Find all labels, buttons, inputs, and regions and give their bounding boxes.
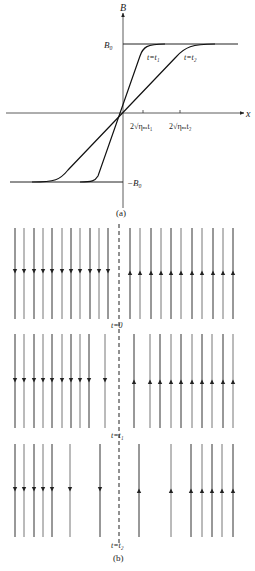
- arrow-up-icon: [179, 380, 183, 385]
- arrow-down-icon: [41, 378, 45, 383]
- arrow-down-icon: [103, 378, 107, 383]
- x-axis-label: x: [245, 108, 251, 119]
- arrow-up-icon: [190, 380, 194, 385]
- figure: x B B₀ −B₀ 2√ηₘt₁ 2√ηₘt₂ t=t₁ t=t₂ (a) t…: [0, 0, 255, 571]
- b0-label: B₀: [104, 40, 113, 50]
- arrow-up-icon: [211, 271, 215, 276]
- arrow-up-icon: [128, 271, 132, 276]
- arrow-up-icon: [190, 271, 194, 276]
- curve-t1-label: t=t₁: [147, 53, 160, 62]
- arrow-up-icon: [148, 380, 152, 385]
- arrow-up-icon: [231, 489, 235, 494]
- panel-a-chart: x B B₀ −B₀ 2√ηₘt₁ 2√ηₘt₂ t=t₁ t=t₂ (a): [6, 2, 251, 218]
- arrow-up-icon: [169, 380, 173, 385]
- arrow-up-icon: [189, 489, 193, 494]
- curve-t2-label: t=t₂: [184, 53, 197, 62]
- arrow-up-icon: [169, 271, 173, 276]
- panel-b-diagram: t=0 t=t₁ t=t₂ (b): [13, 224, 235, 563]
- arrow-down-icon: [13, 487, 17, 492]
- x-tick-2-label: 2√ηₘt₂: [169, 122, 192, 131]
- arrow-down-icon: [97, 269, 101, 274]
- arrow-down-icon: [50, 378, 54, 383]
- arrow-up-icon: [221, 380, 225, 385]
- arrow-down-icon: [106, 269, 110, 274]
- arrow-down-icon: [32, 378, 36, 383]
- arrow-up-icon: [210, 380, 214, 385]
- y-axis-label: B: [120, 2, 126, 13]
- arrow-down-icon: [78, 269, 82, 274]
- arrow-down-icon: [69, 269, 73, 274]
- arrow-up-icon: [200, 489, 204, 494]
- arrow-down-icon: [22, 378, 26, 383]
- arrow-down-icon: [78, 378, 82, 383]
- arrow-up-icon: [220, 489, 224, 494]
- arrow-up-icon: [231, 271, 235, 276]
- arrow-down-icon: [60, 378, 64, 383]
- arrow-down-icon: [68, 487, 72, 492]
- arrow-down-icon: [41, 487, 45, 492]
- arrow-up-icon: [159, 271, 163, 276]
- panel-b-caption: (b): [113, 553, 124, 563]
- arrow-down-icon: [13, 269, 17, 274]
- arrow-up-icon: [231, 380, 235, 385]
- row-label-t0: t=0: [111, 321, 123, 330]
- row-label-t1: t=t₁: [111, 431, 124, 440]
- row-label-t2: t=t₂: [111, 541, 124, 550]
- arrow-up-icon: [210, 489, 214, 494]
- arrow-down-icon: [87, 378, 91, 383]
- arrow-up-icon: [179, 271, 183, 276]
- arrow-up-icon: [132, 380, 136, 385]
- neg-b0-label: −B₀: [127, 178, 142, 188]
- arrow-down-icon: [88, 269, 92, 274]
- arrow-down-icon: [50, 269, 54, 274]
- arrow-down-icon: [13, 378, 17, 383]
- arrow-down-icon: [32, 487, 36, 492]
- arrow-down-icon: [98, 487, 102, 492]
- field-lines: [13, 228, 235, 537]
- x-tick-1-label: 2√ηₘt₁: [130, 122, 153, 131]
- arrow-down-icon: [69, 378, 73, 383]
- panel-a-caption: (a): [116, 208, 126, 218]
- arrow-up-icon: [138, 271, 142, 276]
- arrow-up-icon: [221, 271, 225, 276]
- arrow-up-icon: [200, 380, 204, 385]
- arrow-down-icon: [60, 269, 64, 274]
- arrow-up-icon: [200, 271, 204, 276]
- arrow-down-icon: [22, 269, 26, 274]
- arrow-down-icon: [22, 487, 26, 492]
- arrow-down-icon: [32, 269, 36, 274]
- arrow-up-icon: [137, 489, 141, 494]
- arrow-up-icon: [149, 271, 153, 276]
- arrow-down-icon: [50, 487, 54, 492]
- arrow-down-icon: [41, 269, 45, 274]
- arrow-up-icon: [158, 380, 162, 385]
- arrow-up-icon: [169, 489, 173, 494]
